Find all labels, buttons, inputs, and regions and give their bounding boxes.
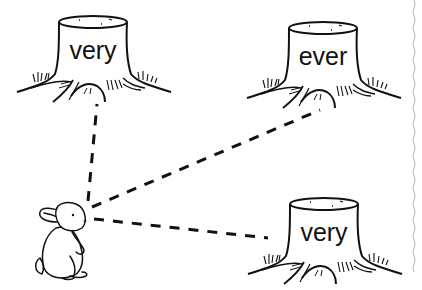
worksheet-scene: very ever very <box>0 0 422 290</box>
stump-top-left[interactable]: very <box>17 16 171 102</box>
stump-word: very <box>300 218 348 246</box>
stump-top-right[interactable]: ever <box>247 22 401 108</box>
dashed-paths <box>88 104 320 238</box>
page-edge <box>413 0 415 272</box>
path-to-top-right[interactable] <box>92 110 320 207</box>
stump-word: very <box>69 36 117 64</box>
path-to-bottom-right[interactable] <box>94 219 268 238</box>
path-to-top-left[interactable] <box>88 104 97 201</box>
rabbit-icon <box>36 203 87 280</box>
stump-word: ever <box>299 42 348 70</box>
stump-bottom-right[interactable]: very <box>248 198 402 284</box>
